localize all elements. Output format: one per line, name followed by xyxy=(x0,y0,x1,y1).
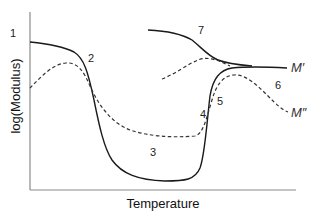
m-prime-label: M′ xyxy=(291,60,305,75)
m-double-prime-curve xyxy=(30,63,288,137)
region-label-1: 1 xyxy=(10,27,16,39)
region-label-4: 4 xyxy=(200,108,206,120)
crosslinked-loss-curve xyxy=(162,58,230,79)
region-label-2: 2 xyxy=(88,52,94,64)
modulus-temperature-diagram: 1 2 3 4 5 6 7 M′ M″ Temperature log(Modu… xyxy=(0,0,322,216)
y-axis-label: log(Modulus) xyxy=(8,58,23,133)
region-label-3: 3 xyxy=(150,146,156,158)
m-double-prime-label: M″ xyxy=(291,105,307,120)
region-label-7: 7 xyxy=(198,24,204,36)
region-label-5: 5 xyxy=(217,95,223,107)
region-label-6: 6 xyxy=(275,79,281,91)
x-axis-label: Temperature xyxy=(127,196,200,211)
m-prime-curve xyxy=(30,42,287,181)
